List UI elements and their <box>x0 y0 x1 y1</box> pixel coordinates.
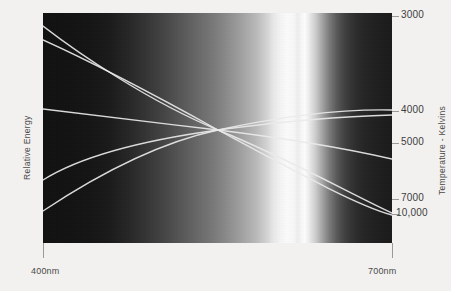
y-right-label-3000: 3000 <box>401 9 424 20</box>
curve-10000k <box>43 26 392 213</box>
blackbody-curves-group <box>43 13 392 243</box>
curve-3000k <box>43 40 392 215</box>
x-axis-label-start: 400nm <box>31 266 60 276</box>
y-axis-title-temperature-kelvins: Temperature - Kelvins <box>437 106 447 195</box>
y-right-tick-4000 <box>392 111 399 112</box>
y-right-label-4000: 4000 <box>401 104 424 115</box>
y-axis-title-relative-energy: Relative Energy <box>22 115 32 180</box>
curve-7000k <box>43 109 392 159</box>
curve-5000k <box>43 110 392 211</box>
y-right-tick-5000 <box>392 143 399 144</box>
spectral-power-distribution-chart: 400nm 700nm 3000 4000 5000 7000 10,000 R… <box>0 0 451 291</box>
curve-4000k <box>43 115 392 180</box>
y-right-tick-7000 <box>392 199 399 200</box>
x-axis-label-end: 700nm <box>368 266 397 276</box>
plot-area <box>43 13 392 243</box>
y-right-label-10000: 10,000 <box>396 207 428 218</box>
x-tick-400nm <box>43 243 44 258</box>
y-right-label-5000: 5000 <box>401 136 424 147</box>
x-tick-700nm <box>392 243 393 258</box>
y-right-label-7000: 7000 <box>401 192 424 203</box>
y-right-tick-3000 <box>392 16 399 17</box>
